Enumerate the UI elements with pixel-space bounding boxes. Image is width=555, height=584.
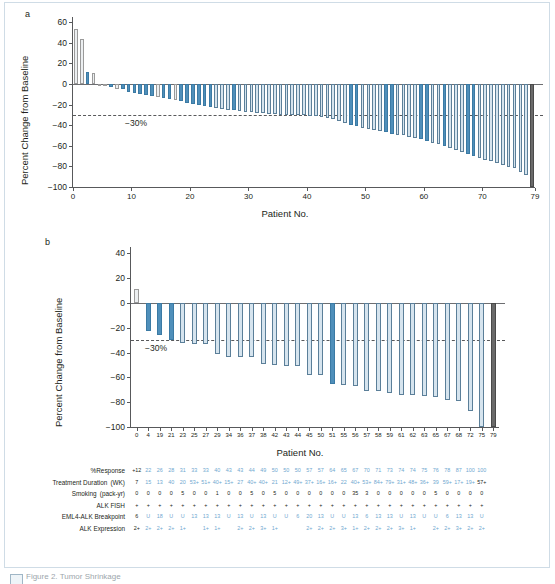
panel-b-x-axis (131, 427, 499, 428)
panel-a-letter: a (25, 9, 30, 19)
panel-a-bar (320, 84, 324, 117)
panel-a-bar (273, 84, 277, 114)
panel-b-bar (387, 303, 392, 394)
panel-b-xtick-mark (298, 428, 299, 431)
panel-b-bar (330, 303, 335, 384)
panel-b-bar (307, 303, 312, 375)
panel-a-bar (384, 84, 388, 132)
panel-b-bar (215, 303, 220, 354)
annotation-row-label: %Response (5, 465, 125, 476)
panel-a-bar (133, 84, 137, 93)
panel-b-xtick-mark (493, 428, 494, 431)
panel-a-bar (197, 84, 201, 105)
panel-a-bar (489, 84, 493, 161)
panel-a-bar (454, 84, 458, 150)
panel-a-bar (214, 84, 218, 108)
panel-b-xtick-mark (263, 428, 264, 431)
panel-b-xtick-mark (390, 428, 391, 431)
panel-b-xtick-mark (332, 428, 333, 431)
panel-a-bar (138, 84, 142, 94)
panel-a-ytick-label: −20 (39, 100, 67, 110)
annotation-table-row: %Response+122226283133334043434449505050… (5, 465, 511, 477)
panel-a-bar (437, 84, 441, 144)
panel-a-bar (302, 84, 306, 115)
panel-a-bar (109, 84, 113, 87)
panel-b-bar (272, 303, 277, 365)
panel-b-ytick-label: −40 (97, 348, 125, 358)
panel-b-bar (134, 289, 139, 303)
panel-b-xtick-mark (367, 428, 368, 431)
panel-b-bar (479, 303, 484, 427)
annotation-row-label: ALK FISH (5, 500, 125, 511)
panel-a-bar (372, 84, 376, 130)
panel-b-xtick-mark (459, 428, 460, 431)
annotation-table-row: EML4-ALK Breakpoint6U18UU131313U13U13UU6… (5, 511, 511, 523)
panel-a-bar (501, 84, 505, 165)
panel-b-bar (157, 303, 162, 335)
panel-b-xtick-mark (378, 428, 379, 431)
panel-a-bar (530, 84, 534, 187)
annotation-table-cell: + (471, 500, 493, 511)
annotation-table-row: ALK FISH+++++++++++++++++++++++++++++++ (5, 500, 511, 512)
panel-b-xtick-mark (194, 428, 195, 431)
panel-a-xtick-mark (131, 188, 132, 191)
annotation-row-label: ALK Expression (5, 523, 125, 534)
panel-b-xtick-mark (286, 428, 287, 431)
panel-a-bar (115, 84, 119, 89)
panel-b-bar (341, 303, 346, 385)
annotation-table-cell: 57+ (471, 477, 493, 488)
panel-b-xtick-mark (447, 428, 448, 431)
panel-b-xtick-mark (413, 428, 414, 431)
panel-a-bar (279, 84, 283, 115)
panel-a-bar (121, 84, 125, 89)
panel-b-ytick-label: −100 (97, 422, 125, 432)
panel-a-bar (86, 72, 90, 84)
panel-b-xtick-mark (217, 428, 218, 431)
panel-a-bar (314, 84, 318, 116)
panel-b-bar (318, 303, 323, 375)
panel-a-bar (285, 84, 289, 115)
panel-a-bar (448, 84, 452, 148)
panel-a-xtick-mark (482, 188, 483, 191)
panel-a-bar (343, 84, 347, 123)
panel-b-xtick-mark (171, 428, 172, 431)
panel-a-bar (507, 84, 511, 167)
panel-a-bar (179, 84, 183, 102)
panel-b-ytick-label: 40 (97, 248, 125, 258)
annotation-table-cell: U (471, 511, 493, 522)
panel-a-bar (185, 84, 189, 103)
panel-b-xtick-mark (275, 428, 276, 431)
panel-a-bar (466, 84, 470, 154)
panel-a-bar (150, 84, 154, 96)
panel-a-bar (255, 84, 259, 113)
panel-a-bar (472, 84, 476, 156)
panel-a-bar (226, 84, 230, 110)
panel-a-bar (308, 84, 312, 116)
panel-b-xtick-mark (229, 428, 230, 431)
panel-b-bar (249, 303, 254, 358)
panel-b-bar (192, 303, 197, 344)
panel-b-bar (353, 303, 358, 386)
panel-a-bar (396, 84, 400, 136)
panel-b-bar (261, 303, 266, 364)
panel-a-bar (419, 84, 423, 139)
annotation-row-label: EML4-ALK Breakpoint (5, 511, 125, 522)
panel-a-bar (238, 84, 242, 111)
panel-a-bar (402, 84, 406, 136)
annotation-table: %Response+122226283133334043434449505050… (5, 465, 551, 565)
panel-a-bar (261, 84, 265, 113)
panel-a-ytick-label: 0 (39, 79, 67, 89)
annotation-table-row: Treatment Duration (WK)71513402053+51+40… (5, 477, 511, 489)
panel-a-bar (519, 84, 523, 172)
panel-a-bar (74, 29, 78, 84)
panel-b-xtick-mark (206, 428, 207, 431)
panel-a-plot: −30% (73, 17, 535, 187)
panel-a-bar (513, 84, 517, 168)
panel-a-bar (232, 84, 236, 110)
panel-a-bar (407, 84, 411, 137)
panel-a-bar (162, 84, 166, 98)
panel-b: b Percent Change from Baseline Patient N… (5, 231, 551, 456)
panel-a-ytick-label: −80 (39, 161, 67, 171)
panel-a-bar (92, 73, 96, 84)
panel-b-bar (146, 303, 151, 332)
